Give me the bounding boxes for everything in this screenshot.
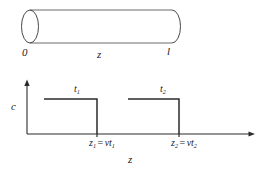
step-t2-front-equals: = (178, 137, 187, 148)
step-plot-axes (24, 80, 255, 137)
step-t2-label: t2 (160, 84, 166, 95)
figure-vector-layer (0, 0, 273, 173)
step-t2-label-sub: 2 (163, 88, 166, 95)
step-curve-t1-path (44, 99, 97, 134)
step-t1-front-expr-sub: 1 (112, 142, 115, 149)
step-t2-front-label: z2=vt2 (171, 138, 197, 149)
cylinder-rod (22, 10, 181, 43)
plot-x-axis-arrowhead (249, 131, 256, 136)
cylinder-right-cap-arc (172, 10, 181, 43)
step-curve-t1 (44, 99, 97, 137)
cylinder-axis-label: z (97, 49, 101, 60)
step-t1-label: t1 (74, 84, 80, 95)
step-t1-front-expr: vt (105, 137, 112, 148)
cylinder-left-cap-ellipse (22, 10, 39, 43)
plot-y-axis-label: c (11, 101, 16, 112)
plot-x-axis-label: z (128, 154, 132, 165)
step-curve-t2 (128, 99, 179, 137)
step-t1-label-sub: 1 (77, 88, 80, 95)
physics-figure: 0 z l c z t1 z1=vt1 t2 z2=vt2 (0, 0, 273, 173)
step-t2-front-expr-sub: 2 (194, 142, 197, 149)
plot-y-axis-arrowhead (24, 80, 29, 87)
cylinder-length-label: l (167, 46, 170, 57)
step-t2-front-expr: vt (187, 137, 194, 148)
step-t1-front-equals: = (96, 137, 105, 148)
cylinder-origin-label: 0 (22, 47, 28, 58)
step-t1-front-label: z1=vt1 (89, 138, 115, 149)
step-curve-t2-path (128, 99, 179, 134)
